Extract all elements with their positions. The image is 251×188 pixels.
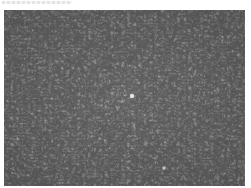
caption-strip <box>2 1 72 4</box>
cell-texture <box>4 10 245 186</box>
cell-micrograph <box>4 10 245 186</box>
